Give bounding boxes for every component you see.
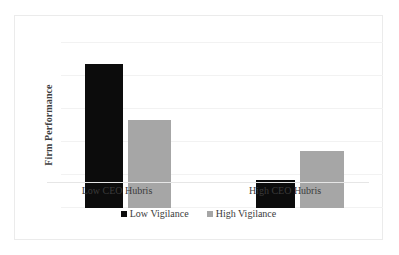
x-tick-label-low-ceo-hubris: Low CEO Hubris <box>47 185 187 196</box>
legend-swatch-icon <box>121 211 127 217</box>
legend-label-high-vigilance: High Vigilance <box>216 208 277 219</box>
plot-area <box>61 42 383 208</box>
bar-chart-figure: Firm Performance Low CEO Hubris High CEO… <box>0 0 399 255</box>
chart-legend: Low Vigilance High Vigilance <box>15 208 382 219</box>
legend-item-high-vigilance: High Vigilance <box>207 208 277 219</box>
legend-swatch-icon <box>207 211 213 217</box>
bar-high-hubris-high-vigilance <box>300 151 344 208</box>
legend-item-low-vigilance: Low Vigilance <box>121 208 189 219</box>
x-axis-baseline <box>47 182 369 183</box>
legend-label-low-vigilance: Low Vigilance <box>130 208 189 219</box>
chart-frame: Firm Performance Low CEO Hubris High CEO… <box>14 15 383 240</box>
x-tick-label-high-ceo-hubris: High CEO Hubris <box>215 185 355 196</box>
y-axis-title: Firm Performance <box>42 42 56 208</box>
gridline <box>61 42 383 43</box>
